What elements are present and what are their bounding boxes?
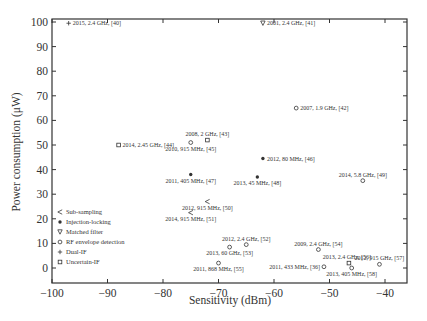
legend-label: RF envelope detection <box>66 238 125 245</box>
data-point: 2009, 2.4 GHz, [54] <box>294 241 342 252</box>
filled-dot-icon <box>58 220 61 223</box>
filled-dot-icon <box>256 175 259 178</box>
legend-item: Dual-IF <box>58 248 87 255</box>
scatter-chart: −100−90−80−70−60−50−40 01020304050607080… <box>0 0 427 321</box>
legend-label: Dual-IF <box>66 248 87 255</box>
circle-icon <box>322 265 326 269</box>
legend-item: Sub-sampling <box>58 208 103 215</box>
data-point: 2015, 2.4 GHz, [40] <box>66 20 121 27</box>
point-label: 2011, 433 MHz, [36] <box>269 264 320 271</box>
circle-icon <box>294 106 298 110</box>
triangle-left-icon <box>189 210 193 214</box>
y-tick-label: 50 <box>37 139 49 151</box>
point-label: 2011, 405 MHz, [47] <box>165 178 216 185</box>
triangle-down-icon <box>58 230 62 234</box>
y-axis-title: Power consumption (μW) <box>10 92 23 211</box>
data-point: 2012, 80 MHz, [46] <box>261 156 315 163</box>
data-point: 2008, 2 GHz, [43] <box>185 131 229 142</box>
circle-icon <box>189 141 193 145</box>
point-label: 2008, 2 GHz, [43] <box>185 131 229 138</box>
circle-icon <box>361 179 365 183</box>
point-label: 2011, 868 MHz, [55] <box>193 266 244 273</box>
legend-item: RF envelope detection <box>58 238 125 245</box>
point-label: 2007, 1.9 GHz, [42] <box>300 105 348 112</box>
y-tick-label: 0 <box>42 262 48 274</box>
triangle-left-icon <box>58 210 62 214</box>
data-point: 2007, 1.9 GHz, [42] <box>294 105 348 112</box>
circle-icon <box>228 245 232 249</box>
circle-icon <box>244 243 248 247</box>
point-label: 2001, 2.4 GHz, [41] <box>267 20 315 27</box>
y-tick-label: 100 <box>31 16 49 28</box>
y-tick-label: 60 <box>37 114 49 126</box>
plus-icon <box>66 21 70 25</box>
point-label: 2010, 915 MHz, [45] <box>165 146 216 153</box>
point-label: 2015, 2.4 GHz, [40] <box>73 20 121 27</box>
y-tick-label: 20 <box>37 213 49 225</box>
triangle-down-icon <box>261 21 265 25</box>
point-label: 2014, 915 MHz, [51] <box>165 216 216 223</box>
data-point: 2011, 405 MHz, [47] <box>165 173 216 185</box>
data-point: 2001, 2.4 GHz, [41] <box>261 20 316 27</box>
point-label: 2012, 80 MHz, [46] <box>267 156 315 163</box>
x-tick-label: −90 <box>99 287 117 299</box>
circle-icon <box>350 266 354 270</box>
x-tick-label: −100 <box>40 287 64 299</box>
data-point: 2011, 433 MHz, [36] <box>269 264 326 271</box>
data-point: 2013, 405 MHz, [58] <box>326 266 377 278</box>
filled-dot-icon <box>189 173 192 176</box>
filled-dot-icon <box>261 157 264 160</box>
x-tick-label: −80 <box>154 287 172 299</box>
data-point: 2013, 60 GHz, [53] <box>206 245 253 257</box>
point-label: 2013, 60 GHz, [53] <box>206 250 253 257</box>
legend-item: Injection-locking <box>58 218 111 225</box>
x-axis-title: Sensitivity (dBm) <box>189 294 271 307</box>
legend: Sub-samplingInjection-lockingMatched fil… <box>58 208 125 265</box>
legend-item: Matched filter <box>58 228 104 235</box>
point-label: 2012, 915 GHz, [57] <box>355 255 405 262</box>
point-label: 2013, 45 MHz, [48] <box>233 180 281 187</box>
plus-icon <box>58 250 62 254</box>
point-label: 2012, 915 MHz, [50] <box>182 205 233 212</box>
circle-icon <box>217 261 221 265</box>
data-point: 2012, 915 GHz, [57] <box>355 255 405 266</box>
data-point: 2014, 5.8 GHz, [49] <box>339 172 387 183</box>
legend-label: Uncertain-IF <box>66 258 100 265</box>
legend-label: Matched filter <box>66 228 104 235</box>
square-icon <box>58 260 62 264</box>
y-tick-label: 10 <box>37 237 49 249</box>
point-label: 2009, 2.4 GHz, [54] <box>294 241 342 248</box>
x-tick-label: −40 <box>376 287 394 299</box>
legend-label: Injection-locking <box>66 218 112 225</box>
data-point: 2014, 915 MHz, [51] <box>165 210 216 222</box>
square-icon <box>117 143 121 147</box>
square-icon <box>206 138 210 142</box>
circle-icon <box>378 262 382 266</box>
data-point: 2013, 45 MHz, [48] <box>233 175 281 187</box>
circle-icon <box>58 240 62 244</box>
triangle-left-icon <box>205 199 209 203</box>
point-label: 2014, 5.8 GHz, [49] <box>339 172 387 179</box>
x-tick-label: −50 <box>321 287 339 299</box>
legend-item: Uncertain-IF <box>58 258 100 265</box>
y-tick-label: 30 <box>37 188 49 200</box>
y-tick-label: 90 <box>37 41 49 53</box>
y-tick-label: 40 <box>37 164 49 176</box>
point-label: 2013, 405 MHz, [58] <box>326 271 377 278</box>
y-tick-label: 70 <box>37 90 49 102</box>
y-tick-label: 80 <box>37 65 49 77</box>
square-icon <box>347 261 351 265</box>
data-point: 2011, 868 MHz, [55] <box>193 261 244 273</box>
circle-icon <box>317 248 321 252</box>
point-label: 2012, 2.4 GHz, [52] <box>222 236 270 243</box>
data-point: 2012, 915 MHz, [50] <box>182 199 233 211</box>
legend-label: Sub-sampling <box>66 208 103 215</box>
